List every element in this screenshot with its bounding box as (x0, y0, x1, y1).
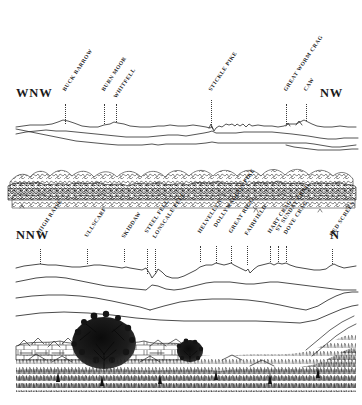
ridge-line-far (16, 120, 356, 131)
peak-leader-line (332, 249, 333, 264)
ridge-line-skyline (16, 263, 356, 278)
panel-bottom-svg (0, 220, 362, 405)
peak-leader-line (231, 246, 232, 263)
peak-leader-line (40, 249, 41, 264)
peak-leader-line (104, 104, 105, 124)
peak-leader-line (270, 246, 271, 262)
peak-leader-line (200, 246, 201, 262)
compass-label-nw: NW (320, 86, 343, 101)
peak-leader-line (87, 249, 88, 264)
peak-leader-line (211, 100, 212, 127)
peak-leader-line (155, 249, 156, 274)
midground-bench (16, 305, 358, 323)
panel-bottom-skyline (0, 220, 362, 405)
peak-leader-line (247, 246, 248, 265)
peak-leader-line (286, 246, 287, 262)
peak-leader-line (124, 249, 125, 262)
peak-leader-line (306, 104, 307, 121)
compass-label-nnw: NNW (16, 228, 49, 243)
ridge-line-near (16, 129, 356, 147)
ridge-line-mid (16, 130, 358, 139)
panel-top-skyline (0, 0, 362, 152)
ridge-line-second (16, 277, 356, 290)
peak-leader-line (278, 246, 279, 262)
peak-leader-line (147, 249, 148, 274)
panorama-diagram: WNW NW NNW N BUCK BARROWBURN MOORWHITFEL… (0, 0, 362, 405)
compass-label-wnw: WNW (16, 86, 52, 101)
panel-top-svg (0, 0, 362, 152)
valley-slope-left (16, 295, 150, 310)
peak-leader-line (116, 104, 117, 122)
valley-slope-right (150, 292, 358, 310)
peak-leader-line (65, 104, 66, 124)
peak-leader-line (286, 104, 287, 124)
ridge-detail-right (286, 121, 302, 126)
peak-leader-line (216, 246, 217, 263)
